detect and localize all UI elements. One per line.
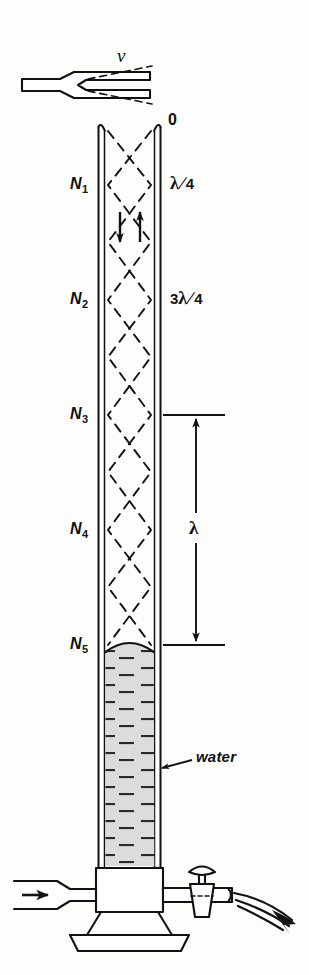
- node-sub-n4: 4: [82, 528, 88, 540]
- length-label-three-quarter-wavelength: 3λ/4: [170, 289, 203, 307]
- node-sub-n2: 2: [82, 298, 88, 310]
- water-jet: [234, 893, 296, 934]
- node-base-n4: N: [70, 520, 82, 537]
- node-sub-n1: 1: [82, 183, 88, 195]
- figure-drawing: [0, 0, 309, 975]
- node-base-n1: N: [70, 175, 82, 192]
- node-base-n2: N: [70, 290, 82, 307]
- wavelength-dimension-label: λ: [189, 518, 198, 537]
- node-label-n5: N5: [70, 636, 88, 655]
- node-label-n3: N3: [70, 406, 88, 425]
- air-oscillation-arrows: [120, 212, 140, 242]
- water-label: water: [196, 749, 236, 764]
- water-column: [106, 643, 155, 866]
- water-leader-line: [162, 760, 192, 768]
- node-label-n1: N1: [70, 176, 88, 195]
- apparatus-base: [70, 868, 189, 951]
- node-sub-n3: 3: [82, 413, 88, 425]
- stopcock-valve: [189, 867, 215, 918]
- resonance-tube-figure: ν 0 N1 N2 N3 N4 N5 λ/4 3λ/4 λ water: [0, 0, 309, 975]
- node-sub-n5: 5: [82, 643, 88, 655]
- node-base-n3: N: [70, 405, 82, 422]
- tuning-fork: [22, 72, 150, 98]
- standing-wave-pattern: [108, 131, 151, 645]
- tube-top-zero-label: 0: [168, 112, 177, 128]
- frequency-label: ν: [117, 46, 125, 65]
- length-label-quarter-wavelength: λ/4: [170, 174, 194, 192]
- node-base-n5: N: [70, 635, 82, 652]
- node-label-n4: N4: [70, 521, 88, 540]
- node-label-n2: N2: [70, 291, 88, 310]
